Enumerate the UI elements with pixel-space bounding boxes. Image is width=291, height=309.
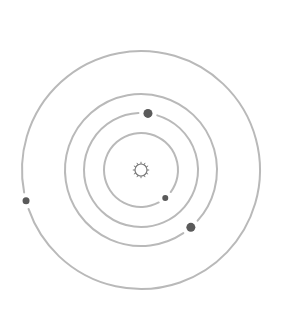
sun-icon [133, 162, 149, 178]
planet-3 [186, 223, 195, 232]
planet-1 [162, 195, 168, 201]
planet-4 [23, 197, 30, 204]
orbit-diagram [0, 0, 291, 309]
solar-system-diagram [0, 0, 291, 309]
planet-2 [143, 109, 152, 118]
